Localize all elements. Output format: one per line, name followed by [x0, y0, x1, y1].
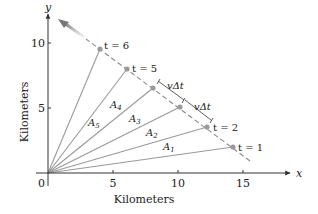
point-t6 [97, 46, 102, 51]
label-t2: t = 2 [213, 122, 238, 133]
ray-t6 [48, 49, 100, 173]
point-t2 [204, 124, 209, 129]
area-label-a4: A4 [109, 99, 122, 112]
displacement-label-2: vΔt [194, 101, 212, 112]
area-label-a3: A3 [128, 113, 141, 126]
displacement-label-1: vΔt [167, 80, 185, 91]
point-t3 [177, 104, 182, 109]
label-t6: t = 6 [104, 40, 129, 51]
area-label-a2: A2 [145, 127, 158, 140]
area-label-a1: A1 [162, 141, 175, 154]
kepler-area-diagram: 0 5 10 15 5 10 x y Kilometers Kilometers… [0, 0, 318, 214]
point-t1 [230, 144, 235, 149]
motion-arrow-shaft [64, 23, 84, 37]
label-t5: t = 5 [132, 63, 157, 74]
area-label-a5: A5 [87, 117, 100, 130]
x-var-label: x [296, 167, 303, 180]
x-tick-10: 10 [171, 177, 185, 190]
x-tick-5: 5 [110, 177, 117, 190]
y-var-label: y [44, 1, 52, 14]
point-t5 [124, 66, 129, 71]
x-tick-0: 0 [38, 177, 45, 190]
x-axis-title: Kilometers [114, 193, 175, 206]
y-tick-10: 10 [31, 37, 45, 50]
label-t1: t = 1 [238, 142, 263, 153]
x-tick-15: 15 [236, 177, 250, 190]
ray-t2 [48, 127, 207, 173]
position-points [97, 46, 235, 149]
y-axis-title: Kilometers [18, 81, 31, 142]
y-tick-5: 5 [38, 102, 45, 115]
point-t4 [150, 85, 155, 90]
